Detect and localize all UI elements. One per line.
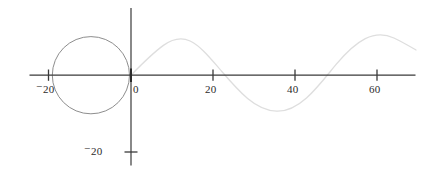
minus-sign-y20: − [84, 142, 91, 154]
x-tick-value-minus-20: 20 [43, 83, 55, 95]
y-tick-label-minus-20: −20 [84, 146, 103, 157]
y-tick-value-minus-20: 20 [91, 145, 103, 157]
x-tick-label-0: 0 [133, 84, 139, 95]
x-tick-label-20: 20 [205, 84, 217, 95]
x-tick-value-0: 0 [133, 83, 139, 95]
x-tick-value-20: 20 [205, 83, 217, 95]
plot-figure: −20 0 20 40 60 −20 [0, 0, 430, 178]
x-tick-value-40: 40 [287, 83, 299, 95]
minus-sign-x20: − [36, 80, 43, 92]
x-tick-label-40: 40 [287, 84, 299, 95]
sine-curve [131, 35, 416, 111]
x-tick-value-60: 60 [369, 83, 381, 95]
x-tick-label-60: 60 [369, 84, 381, 95]
x-tick-label-minus-20: −20 [36, 84, 55, 95]
